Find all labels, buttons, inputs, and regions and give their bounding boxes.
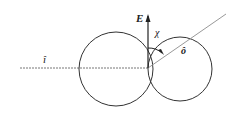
arrowhead-icon xyxy=(146,14,151,22)
outgoing-label: ô xyxy=(181,46,186,56)
angle-label: χ xyxy=(155,28,159,38)
outgoing-direction-line xyxy=(148,14,226,68)
field-label: E xyxy=(136,13,143,24)
right-lobe xyxy=(148,37,212,101)
incident-label: î xyxy=(43,54,46,65)
angle-arrowhead-icon xyxy=(158,49,164,55)
dipole-diagram xyxy=(0,0,236,113)
left-lobe xyxy=(79,32,153,106)
